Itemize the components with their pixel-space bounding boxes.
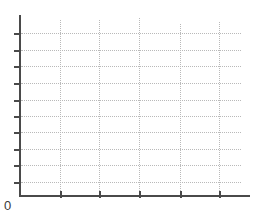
origin-axis-label: 0 xyxy=(4,199,11,213)
chart-canvas: 0 xyxy=(0,0,255,221)
gridline-horizontal xyxy=(21,116,241,117)
chart-ticks xyxy=(0,0,255,221)
gridline-vertical xyxy=(99,20,100,195)
gridline-vertical xyxy=(219,22,220,195)
gridline-vertical xyxy=(180,24,181,195)
x-axis-line xyxy=(19,195,250,197)
gridline-horizontal xyxy=(21,149,241,150)
gridline-horizontal xyxy=(21,100,241,101)
gridline-horizontal xyxy=(21,182,241,183)
gridline-horizontal xyxy=(21,165,241,166)
gridline-horizontal xyxy=(21,33,241,34)
gridline-vertical xyxy=(60,20,61,195)
gridline-horizontal xyxy=(21,50,241,51)
y-axis-line xyxy=(19,15,21,197)
gridline-horizontal xyxy=(21,66,241,67)
gridline-vertical xyxy=(139,18,140,195)
gridline-horizontal xyxy=(21,83,241,84)
gridline-horizontal xyxy=(21,132,241,133)
chart-gridlines xyxy=(0,0,255,221)
